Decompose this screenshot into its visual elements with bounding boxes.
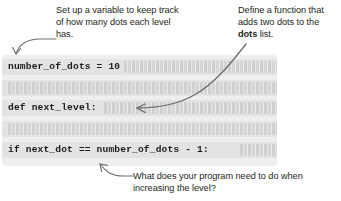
obscured-code-fill bbox=[240, 144, 277, 156]
diagram-canvas: number_of_dots = 10 def next_level: if n… bbox=[0, 0, 341, 201]
annotation-top-right-text-after: list. bbox=[257, 29, 273, 39]
code-row: number_of_dots = 10 bbox=[2, 59, 277, 75]
code-row: if next_dot == number_of_dots - 1: bbox=[2, 142, 277, 158]
annotation-top-left: Set up a variable to keep track of how m… bbox=[56, 4, 181, 40]
annotation-top-right: Define a function that adds two dots to … bbox=[238, 4, 340, 40]
obscured-code-fill bbox=[124, 61, 277, 73]
curved-arrow-down-left-icon bbox=[13, 39, 56, 54]
annotation-top-right-text-before: Define a function that adds two dots to … bbox=[238, 5, 324, 27]
annotation-top-right-emphasis: dots bbox=[238, 29, 257, 39]
obscured-code-fill bbox=[8, 82, 277, 94]
code-line-3: def next_level: bbox=[8, 101, 97, 115]
obscured-code-fill bbox=[8, 123, 277, 135]
code-panel: number_of_dots = 10 def next_level: if n… bbox=[2, 55, 277, 166]
obscured-code-fill bbox=[104, 102, 277, 114]
code-row: def next_level: bbox=[2, 100, 277, 116]
code-line-5: if next_dot == number_of_dots - 1: bbox=[8, 143, 209, 157]
code-row bbox=[2, 121, 277, 137]
annotation-bottom: What does your program need to do when i… bbox=[133, 170, 338, 194]
code-row bbox=[2, 80, 277, 96]
code-line-1: number_of_dots = 10 bbox=[8, 60, 120, 74]
